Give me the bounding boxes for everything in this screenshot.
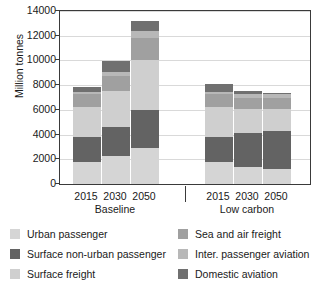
- y-axis-tick-label: 14000: [4, 5, 56, 15]
- y-axis-tick-label: 10000: [4, 54, 56, 64]
- gridline: [60, 60, 310, 61]
- bar-segment: [73, 162, 101, 184]
- bar-segment: [205, 162, 233, 184]
- legend-item[interactable]: Surface freight: [10, 264, 175, 284]
- bar-segment: [73, 107, 101, 137]
- x-axis-tick-label: 2050: [124, 190, 164, 202]
- bar-segment: [205, 84, 233, 92]
- y-axis-tick-label: 12000: [4, 30, 56, 40]
- y-axis-tick-label: 0: [4, 178, 56, 188]
- bar-segment: [234, 109, 262, 132]
- bar-segment: [102, 156, 130, 184]
- legend-label: Surface non-urban passenger: [27, 249, 166, 260]
- bar-segment: [205, 137, 233, 162]
- stacked-bar: [131, 21, 159, 184]
- bar-segment: [131, 31, 159, 38]
- group-divider: [178, 11, 179, 184]
- x-axis-tick-label: 2050: [256, 190, 296, 202]
- gridline: [60, 11, 310, 12]
- bar-segment: [102, 76, 130, 91]
- bar-segment: [205, 107, 233, 137]
- stacked-bar: [73, 87, 101, 184]
- x-axis-group-label: Low carbon: [192, 203, 302, 215]
- legend-item[interactable]: Sea and air freight: [178, 224, 323, 244]
- legend-swatch: [10, 269, 20, 279]
- bar-segment: [234, 133, 262, 168]
- bar-segment: [131, 60, 159, 110]
- bar-segment: [102, 127, 130, 156]
- bar-segment: [263, 109, 291, 131]
- bar-segment: [131, 38, 159, 60]
- bar-segment: [102, 61, 130, 72]
- bar-segment: [131, 21, 159, 31]
- plot-frame: [59, 10, 311, 185]
- legend-item[interactable]: Inter. passenger aviation: [178, 244, 323, 264]
- bar-segment: [234, 98, 262, 110]
- legend-swatch: [178, 229, 188, 239]
- legend-item[interactable]: Domestic aviation: [178, 264, 323, 284]
- bar-segment: [263, 98, 291, 110]
- legend: Urban passengerSurface non-urban passeng…: [0, 224, 323, 288]
- bar-segment: [263, 169, 291, 184]
- y-axis-tick-label: 2000: [4, 153, 56, 163]
- legend-column-right: Sea and air freightInter. passenger avia…: [178, 224, 323, 284]
- bar-segment: [73, 137, 101, 162]
- plot-area: Million tonnes 0200040006000800010000120…: [0, 0, 323, 218]
- legend-label: Sea and air freight: [195, 229, 281, 240]
- x-axis-group-separator: [185, 186, 186, 202]
- gridline: [60, 36, 310, 37]
- x-axis-group-label: Baseline: [60, 203, 170, 215]
- stacked-bar: [205, 84, 233, 184]
- legend-item[interactable]: Surface non-urban passenger: [10, 244, 175, 264]
- bar-segment: [263, 131, 291, 169]
- gridline: [60, 85, 310, 86]
- chart-figure: Million tonnes 0200040006000800010000120…: [0, 0, 323, 288]
- stacked-bar: [102, 61, 130, 184]
- legend-swatch: [10, 249, 20, 259]
- bar-segment: [131, 110, 159, 148]
- stacked-bar: [263, 93, 291, 184]
- legend-swatch: [10, 229, 20, 239]
- bar-segment: [102, 91, 130, 127]
- legend-label: Domestic aviation: [195, 269, 278, 280]
- legend-label: Surface freight: [27, 269, 95, 280]
- legend-swatch: [178, 249, 188, 259]
- y-axis-tick-label: 4000: [4, 129, 56, 139]
- bar-segment: [73, 94, 101, 107]
- y-axis-tick-label: 8000: [4, 79, 56, 89]
- bar-segment: [205, 94, 233, 107]
- bar-segment: [234, 167, 262, 184]
- legend-label: Urban passenger: [27, 229, 108, 240]
- y-axis-tick-label: 6000: [4, 104, 56, 114]
- stacked-bar: [234, 91, 262, 184]
- legend-column-left: Urban passengerSurface non-urban passeng…: [10, 224, 175, 284]
- bar-segment: [131, 148, 159, 184]
- legend-label: Inter. passenger aviation: [195, 249, 309, 260]
- legend-item[interactable]: Urban passenger: [10, 224, 175, 244]
- legend-swatch: [178, 269, 188, 279]
